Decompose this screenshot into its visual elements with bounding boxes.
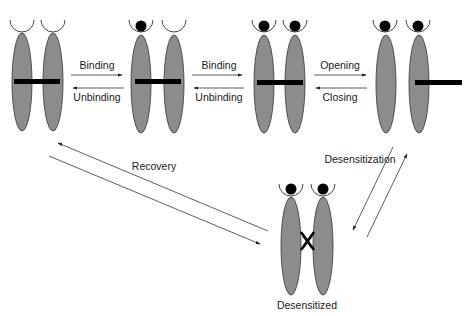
state-unbound-closed: [10, 20, 65, 131]
ligand-icon: [380, 21, 391, 32]
transition-recovery: Recovery: [49, 143, 268, 244]
binding-site-icon: [162, 20, 186, 32]
subunit-icon: [281, 197, 301, 295]
closing-label: Closing: [322, 91, 357, 103]
binding-site-icon: [10, 20, 34, 32]
ligand-icon: [413, 21, 424, 32]
state-open: [373, 20, 462, 133]
closed-gate-icon: [14, 79, 60, 84]
receptor-state-diagram: Binding Unbinding Binding Unbinding Open…: [0, 0, 468, 316]
transition-binding-2: Binding Unbinding: [192, 59, 244, 103]
closed-gate-icon: [257, 80, 303, 85]
ligand-icon: [286, 184, 297, 195]
subunit-icon: [313, 197, 333, 295]
subunit-icon: [376, 35, 396, 133]
desensitization-label: Desensitization: [324, 153, 395, 165]
desensitized-label: Desensitized: [277, 299, 337, 311]
ligand-icon: [136, 21, 147, 32]
transition-opening: Opening Closing: [314, 59, 367, 103]
binding-label-1: Binding: [79, 59, 114, 71]
opening-label: Opening: [320, 59, 360, 71]
transition-desensitization: Desensitization: [324, 147, 407, 237]
ligand-icon: [318, 184, 329, 195]
state-singly-bound: [129, 20, 186, 133]
ligand-icon: [259, 21, 270, 32]
unbinding-label-2: Unbinding: [195, 91, 242, 103]
open-gate-icon: [415, 80, 462, 85]
binding-site-icon: [41, 20, 65, 32]
transition-binding-1: Binding Unbinding: [71, 59, 124, 103]
state-doubly-bound-closed: [252, 20, 307, 133]
unbinding-label-1: Unbinding: [73, 91, 120, 103]
state-desensitized: Desensitized: [277, 184, 337, 312]
binding-label-2: Binding: [201, 59, 236, 71]
desensitized-gate-icon: [301, 232, 314, 250]
ligand-icon: [290, 21, 301, 32]
recovery-label: Recovery: [132, 160, 177, 172]
closed-gate-icon: [135, 79, 181, 84]
